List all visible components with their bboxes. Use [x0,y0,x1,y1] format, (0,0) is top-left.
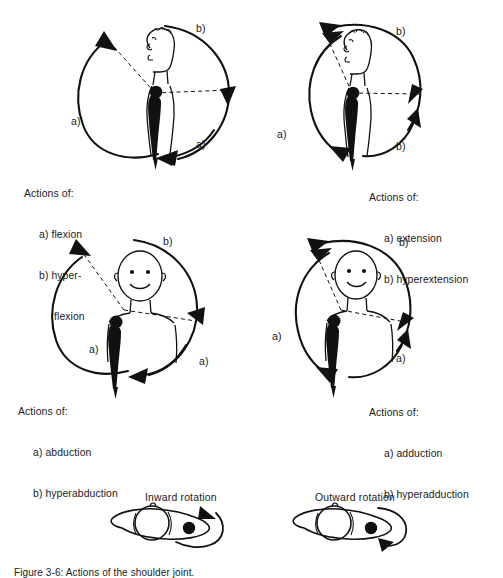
panel-flexion: b) a) a) Actions of: a) flexion b) hyper… [0,0,250,215]
arc-label-a-left: a) [71,115,81,127]
head-top-view [317,506,351,540]
caption-header: Actions of: [369,406,469,420]
arc-label-b-top: b) [399,236,409,248]
arc-label-b-bottom: b) [396,140,406,152]
arc-a-lower [349,345,402,377]
caption-item-a: a) abduction [18,446,118,460]
arrowhead-right-up [397,312,414,331]
figure-superior-inward [111,503,223,547]
motion-circle [296,241,411,375]
figure-superior-outward [293,503,406,552]
eye-right [362,269,366,273]
figure-caption: Figure 3-6: Actions of the shoulder join… [14,567,194,578]
arc-label-a-left: a) [277,128,287,140]
arc-label-a-bottom: a) [196,138,206,150]
arc-label-a-bottom: a) [396,352,406,364]
panel-extension: b) a) b) Actions of: a) extension b) hyp… [253,0,503,215]
caption-header: Actions of: [369,191,468,205]
shoulder-joint-dot [183,522,195,534]
eye-right [146,270,150,274]
arc-label-a-bottom: a) [199,355,209,367]
arc-a-lower [144,345,186,375]
caption-header: Actions of: [24,187,85,201]
arrowhead-inward [198,506,216,519]
motion-circle [309,25,420,155]
panel-adduction: b) a) a) Actions of: a) adduction b) hyp… [253,225,503,440]
rotation-drawing [0,480,503,560]
caption-header: Actions of: [18,405,118,419]
figure-lateral [147,27,174,170]
dashed-radius-horizontal [155,90,228,93]
shoulder-joint-dot [365,522,377,534]
arrowhead-upper-left [69,239,91,256]
arc-label-b-top: b) [196,22,206,34]
caption-item-a: a) adduction [369,447,469,461]
arc-label-b-top: b) [163,235,173,247]
arc-label-b-top: b) [396,25,406,37]
arrowhead-right [220,86,236,106]
head-top-view [135,506,169,540]
arrowhead-a-lower [397,329,411,349]
dashed-radius-horizontal [124,310,196,321]
arc-label-a-left: a) [89,343,99,355]
figure-anterior [325,251,392,398]
arrowhead-a-lower [128,368,148,384]
eye-left [347,269,351,273]
panel-rotation: Inward rotation Outward rotation [0,480,503,560]
dashed-radius-upper [80,249,124,310]
motion-circle [52,240,197,375]
arc-label-a-left: a) [272,330,282,342]
dashed-radius-upper [108,40,155,93]
arrowhead-b-lower [407,108,421,128]
panel-abduction: b) a) a) Actions of: a) abduction b) hyp… [0,225,250,440]
eye-left [130,270,134,274]
